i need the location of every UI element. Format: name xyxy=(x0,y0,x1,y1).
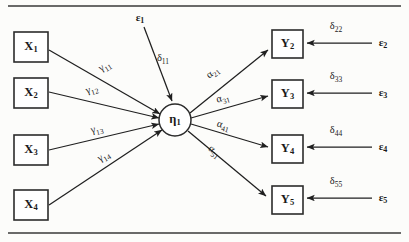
alpha-line-alpha51 xyxy=(188,131,266,196)
alpha-path-lines xyxy=(188,50,268,196)
gamma-label-gamma11: γ11 xyxy=(96,58,114,76)
coef-label-delta11: δ11 xyxy=(157,52,169,65)
coef-label-delta55: δ55 xyxy=(330,175,343,188)
gamma-line-gamma14 xyxy=(49,130,162,205)
gamma-path-lines xyxy=(49,50,162,205)
error-label-epsilon5: ε5 xyxy=(379,191,388,205)
exogenous-nodes: X1X2X3X4 xyxy=(14,32,48,220)
gamma-line-gamma11 xyxy=(49,50,160,114)
latent-node-eta1: η1 xyxy=(159,104,191,136)
alpha-label-alpha31: α31 xyxy=(215,91,231,107)
alpha-label-alpha21: α21 xyxy=(204,64,223,83)
figure-canvas: X1X2X3X4 Y2Y3Y4Y5 η1 γ11γ12γ13γ14 α21α31… xyxy=(0,0,409,242)
horizontal-rules xyxy=(8,6,401,233)
endogenous-nodes: Y2Y3Y4Y5 xyxy=(272,30,303,214)
path-diagram: X1X2X3X4 Y2Y3Y4Y5 η1 γ11γ12γ13γ14 α21α31… xyxy=(0,0,409,242)
error-label-epsilon3: ε3 xyxy=(379,86,388,100)
gamma-line-gamma13 xyxy=(49,124,159,150)
error-label-epsilon4: ε4 xyxy=(379,140,388,154)
coef-label-delta33: δ33 xyxy=(330,70,343,83)
coef-label-delta22: δ22 xyxy=(330,20,343,33)
gamma-coefficient-labels: γ11γ12γ13γ14 xyxy=(83,58,113,166)
gamma-label-gamma13: γ13 xyxy=(89,122,105,138)
error-label-epsilon2: ε2 xyxy=(379,36,388,50)
measurement-error-labels: δ22ε2δ33ε3δ44ε4δ55ε5 xyxy=(330,20,388,204)
disturbance-labels: ε1δ11 xyxy=(136,11,170,66)
coef-label-delta44: δ44 xyxy=(330,124,343,137)
measurement-error-lines xyxy=(307,43,372,198)
error-label-epsilon1: ε1 xyxy=(136,11,145,25)
gamma-line-gamma12 xyxy=(49,92,159,118)
gamma-label-gamma14: γ14 xyxy=(95,148,113,166)
gamma-label-gamma12: γ12 xyxy=(83,82,100,99)
